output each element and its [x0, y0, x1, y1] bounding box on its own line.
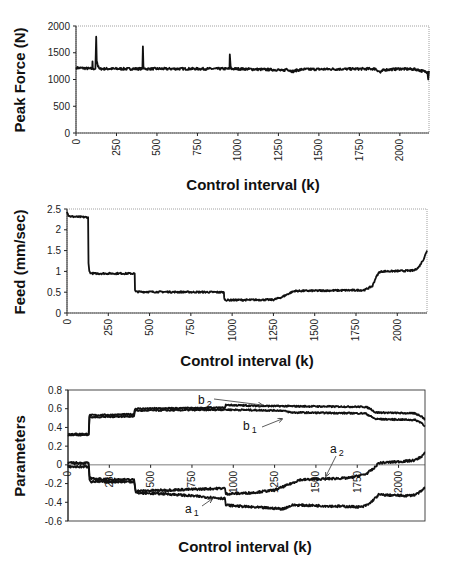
y-tick-label: 2000: [48, 21, 71, 32]
x-tick-label: 2000: [393, 470, 404, 493]
x-tick-label: 1000: [232, 139, 243, 162]
x-tick-label: 500: [145, 470, 156, 487]
y-tick-label: -0.2: [45, 478, 63, 489]
x-axis-title-feed: Control interval (k): [180, 352, 313, 369]
x-tick-label: 250: [103, 319, 114, 336]
x-tick-label: 2000: [392, 319, 403, 342]
x-tick-label: 1500: [310, 470, 321, 493]
y-tick-label: 0.5: [47, 287, 61, 298]
chart-parameters: -0.6-0.4-0.200.20.40.60.8025050075010001…: [11, 385, 425, 556]
chart-feed: 00.511.522.50250500750100012501500175020…: [11, 204, 427, 370]
y-tick-label: 1.5: [47, 245, 61, 256]
x-tick-label: 0: [71, 139, 82, 145]
chart-peak-force: 0500100015002000025050075010001250150017…: [11, 21, 429, 194]
y-tick-label: -0.6: [45, 516, 63, 527]
x-tick-label: 1500: [313, 139, 324, 162]
x-tick-label: 1000: [228, 470, 239, 493]
x-tick-label: 500: [144, 319, 155, 336]
x-tick-label: 1750: [350, 319, 361, 342]
x-tick-label: 1500: [309, 319, 320, 342]
y-tick-label: 0.8: [48, 385, 62, 396]
x-tick-label: 250: [111, 139, 122, 156]
y-tick-label: 0: [55, 308, 61, 319]
y-tick-label: 0.2: [48, 441, 62, 452]
x-tick-label: 2000: [394, 139, 405, 162]
y-tick-label: 0: [56, 459, 62, 470]
x-tick-label: 750: [186, 470, 197, 487]
figure: 0500100015002000025050075010001250150017…: [0, 0, 449, 566]
y-tick-label: 0.6: [48, 403, 62, 414]
x-tick-label: 1250: [273, 139, 284, 162]
y-tick-label: 1500: [48, 47, 71, 58]
y-tick-label: 2.5: [47, 204, 61, 215]
x-axis-title-peak-force: Control interval (k): [186, 176, 319, 193]
y-axis-title-parameters: Parameters: [11, 415, 28, 497]
x-tick-label: 500: [151, 139, 162, 156]
x-tick-label: 750: [185, 319, 196, 336]
x-tick-label: 750: [192, 139, 203, 156]
x-tick-label: 1000: [227, 319, 238, 342]
y-tick-label: 2: [55, 224, 61, 235]
y-axis-title-peak-force: Peak Force (N): [11, 27, 28, 132]
y-tick-label: -0.4: [45, 497, 63, 508]
y-tick-label: 1: [55, 266, 61, 277]
y-tick-label: 0: [64, 128, 70, 139]
x-tick-label: 0: [63, 470, 74, 476]
plot-area-feed: [67, 209, 427, 313]
x-tick-label: 0: [62, 319, 73, 325]
y-tick-label: 500: [53, 101, 70, 112]
x-tick-label: 1250: [268, 319, 279, 342]
y-axis-title-feed: Feed (mm/sec): [11, 209, 28, 314]
y-tick-label: 1000: [48, 74, 71, 85]
x-tick-label: 1750: [354, 139, 365, 162]
x-axis-title-parameters: Control interval (k): [178, 538, 311, 555]
y-tick-label: 0.4: [48, 422, 62, 433]
plot-area-peak-force: [76, 26, 429, 133]
